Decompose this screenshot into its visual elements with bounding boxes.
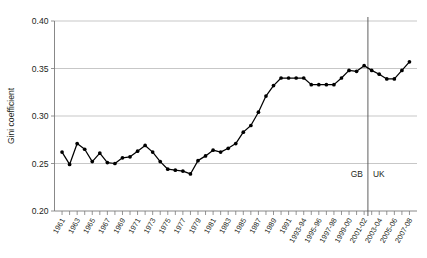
y-tick-label-0.25: 0.25	[32, 159, 49, 169]
data-point-2005-06	[392, 77, 396, 81]
data-point-1965	[90, 160, 94, 164]
x-tick-label-1985: 1985	[232, 217, 248, 236]
x-tick-label-1973: 1973	[142, 217, 158, 236]
data-point-1982	[219, 150, 223, 154]
x-axis-ticks	[62, 211, 409, 215]
data-point-1961	[60, 150, 64, 154]
data-point-1968	[113, 162, 117, 166]
data-point-1979	[196, 159, 200, 163]
x-tick-label-1987: 1987	[247, 217, 263, 236]
y-tick-label-0.40: 0.40	[32, 16, 49, 26]
data-point-1985	[241, 130, 245, 134]
data-point-1970	[128, 155, 132, 159]
y-axis-labels: 0.200.250.300.350.40	[32, 16, 49, 216]
data-point-1996-97	[325, 83, 329, 87]
data-point-1987	[257, 110, 261, 114]
data-point-1986	[249, 124, 253, 128]
x-tick-label-1983: 1983	[217, 217, 233, 236]
x-tick-label-1965: 1965	[81, 217, 97, 236]
data-point-1990	[279, 76, 283, 80]
region-uk: UK	[373, 169, 385, 179]
data-point-1984	[234, 142, 238, 146]
data-point-1998-99	[340, 76, 344, 80]
data-point-1992	[294, 76, 298, 80]
data-point-1966	[98, 151, 102, 155]
y-tick-label-0.20: 0.20	[32, 206, 49, 216]
data-point-1995-96	[317, 83, 321, 87]
data-point-2002-03	[370, 69, 374, 73]
data-point-1972	[143, 144, 147, 148]
x-tick-label-1969: 1969	[111, 217, 127, 236]
data-point-1978	[189, 172, 193, 176]
data-point-1997-98	[332, 83, 336, 87]
data-point-1994-95	[309, 83, 313, 87]
data-point-1963	[75, 142, 79, 146]
y-tick-label-0.30: 0.30	[32, 111, 49, 121]
x-tick-label-1975: 1975	[157, 217, 173, 236]
data-point-1971	[136, 149, 140, 153]
data-point-1981	[211, 148, 215, 152]
x-tick-label-1981: 1981	[202, 217, 218, 236]
data-point-1993-94	[302, 76, 306, 80]
data-point-1999-00	[347, 69, 351, 73]
data-point-1967	[106, 161, 110, 165]
data-point-1969	[121, 156, 125, 160]
data-point-2006-07	[400, 69, 404, 73]
data-point-1989	[272, 84, 276, 88]
y-axis-ticks	[51, 21, 55, 211]
y-axis-title-text: Gini coefficient	[6, 87, 16, 144]
x-tick-label-1977: 1977	[172, 217, 188, 236]
series-polyline	[62, 62, 409, 174]
data-point-1974	[158, 160, 162, 164]
x-tick-label-1979: 1979	[187, 217, 203, 236]
data-point-1976	[173, 168, 177, 172]
x-tick-label-1971: 1971	[126, 217, 142, 236]
x-tick-label-1961: 1961	[51, 217, 67, 236]
gini-series	[60, 60, 411, 176]
data-point-1962	[68, 163, 72, 167]
data-point-2007-08	[408, 60, 412, 64]
data-point-2004-05	[385, 77, 389, 81]
x-tick-label-1989: 1989	[262, 217, 278, 236]
chart-canvas: 1961196319651967196919711973197519771979…	[0, 0, 427, 258]
x-tick-label-1963: 1963	[66, 217, 82, 236]
data-point-1975	[166, 167, 170, 171]
data-point-1977	[181, 169, 185, 173]
data-point-2003-04	[377, 72, 381, 76]
data-point-1980	[204, 154, 208, 158]
region-gb: GB	[351, 169, 364, 179]
gini-coefficient-line-chart: 1961196319651967196919711973197519771979…	[0, 0, 427, 258]
data-point-2000-01	[355, 70, 359, 74]
data-point-1988	[264, 94, 268, 98]
data-point-1973	[151, 150, 155, 154]
y-axis-title: Gini coefficient	[6, 87, 16, 144]
x-tick-label-1967: 1967	[96, 217, 112, 236]
data-point-1964	[83, 147, 87, 151]
data-point-1991	[287, 76, 291, 80]
y-tick-label-0.35: 0.35	[32, 64, 49, 74]
x-axis-labels: 1961196319651967196919711973197519771979…	[51, 217, 414, 245]
data-point-2001-02	[362, 64, 366, 68]
data-point-1983	[226, 146, 230, 150]
